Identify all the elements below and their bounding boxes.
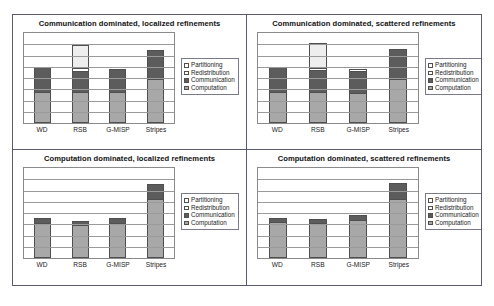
x-tick-label: Stripes	[137, 261, 175, 268]
chart-panel-computation-scattered: Computation dominated, scattered refinem…	[247, 150, 481, 285]
x-tick-label: RSB	[61, 261, 99, 268]
plot-area	[257, 32, 419, 124]
gridline	[258, 179, 418, 180]
x-axis-tick-labels: WD RSB G-MISP Stripes	[257, 126, 419, 133]
chart-legend: Partitioning Redistribution Communicatio…	[181, 193, 239, 230]
gridline	[24, 213, 174, 214]
legend-item-communication: Communication	[428, 77, 479, 83]
x-axis-tick-labels: WD RSB G-MISP Stripes	[23, 126, 175, 133]
legend-item-computation: Computation	[428, 220, 479, 226]
gridline	[258, 89, 418, 90]
legend-label: Computation	[435, 220, 471, 226]
x-axis-tick-labels: WD RSB G-MISP Stripes	[257, 261, 419, 268]
legend-item-communication: Communication	[184, 212, 235, 218]
x-tick-label: G-MISP	[338, 261, 379, 268]
chart-panel-communication-localized: Communication dominated, localized refin…	[13, 15, 247, 150]
x-tick-label: Stripes	[137, 126, 175, 133]
stacked-bar[interactable]	[34, 67, 51, 123]
gridline	[24, 101, 174, 102]
x-tick-label: Stripes	[379, 126, 420, 133]
x-tick-label: G-MISP	[338, 126, 379, 133]
legend-item-redistribution: Redistribution	[184, 70, 235, 76]
gridline	[24, 56, 174, 57]
panel-title: Computation dominated, localized refinem…	[13, 154, 246, 163]
x-tick-label: RSB	[298, 126, 339, 133]
gridline	[258, 101, 418, 102]
legend-item-computation: Computation	[184, 220, 235, 226]
plot-area	[23, 32, 175, 124]
panel-title: Communication dominated, scattered refin…	[247, 19, 481, 28]
legend-swatch-computation-icon	[428, 86, 433, 91]
legend-label: Computation	[191, 220, 227, 226]
bar-segment-communication	[390, 184, 406, 200]
legend-item-computation: Computation	[184, 85, 235, 91]
legend-item-partitioning: Partitioning	[184, 62, 235, 68]
gridline	[24, 67, 174, 68]
legend-label: Partitioning	[435, 62, 467, 68]
legend-label: Partitioning	[435, 197, 467, 203]
gridline	[258, 191, 418, 192]
x-tick-label: G-MISP	[99, 126, 137, 133]
stacked-bar[interactable]	[72, 221, 89, 258]
legend-item-redistribution: Redistribution	[184, 205, 235, 211]
legend-swatch-partitioning-icon	[184, 63, 189, 68]
bar-segment-communication	[148, 185, 163, 200]
legend-swatch-computation-icon	[428, 221, 433, 226]
gridline	[258, 56, 418, 57]
panel-title: Computation dominated, scattered refinem…	[247, 154, 481, 163]
legend-item-partitioning: Partitioning	[428, 62, 479, 68]
bar-segment-communication	[350, 72, 366, 94]
legend-swatch-communication-icon	[184, 213, 189, 218]
x-tick-label: WD	[23, 261, 61, 268]
plot-area	[23, 167, 175, 259]
legend-item-partitioning: Partitioning	[428, 197, 479, 203]
bar-segment-computation	[310, 224, 326, 257]
x-axis-tick-labels: WD RSB G-MISP Stripes	[23, 261, 175, 268]
x-tick-label: RSB	[61, 126, 99, 133]
plot-area	[257, 167, 419, 259]
legend-swatch-partitioning-icon	[428, 198, 433, 203]
x-tick-label: RSB	[298, 261, 339, 268]
gridline	[258, 247, 418, 248]
gridline	[24, 202, 174, 203]
legend-item-communication: Communication	[428, 212, 479, 218]
gridline	[258, 202, 418, 203]
stacked-bar[interactable]	[269, 67, 287, 123]
gridline	[24, 247, 174, 248]
gridline	[24, 179, 174, 180]
legend-swatch-partitioning-icon	[184, 198, 189, 203]
legend-label: Communication	[191, 212, 235, 218]
gridline	[24, 112, 174, 113]
legend-item-computation: Computation	[428, 85, 479, 91]
legend-swatch-redistribution-icon	[428, 206, 433, 211]
bar-segment-computation	[73, 93, 88, 122]
figure-panel-grid: Communication dominated, localized refin…	[0, 0, 494, 306]
legend-item-communication: Communication	[184, 77, 235, 83]
legend-label: Communication	[435, 212, 479, 218]
bar-segment-computation	[110, 93, 125, 122]
legend-swatch-partitioning-icon	[428, 63, 433, 68]
x-tick-label: G-MISP	[99, 261, 137, 268]
legend-item-partitioning: Partitioning	[184, 197, 235, 203]
legend-label: Communication	[191, 77, 235, 83]
legend-swatch-redistribution-icon	[184, 71, 189, 76]
legend-label: Computation	[435, 85, 471, 91]
bar-segment-computation	[350, 94, 366, 122]
legend-label: Partitioning	[191, 62, 223, 68]
legend-label: Redistribution	[191, 70, 230, 76]
bar-segment-computation	[35, 93, 50, 122]
bar-segment-computation	[73, 226, 88, 257]
legend-label: Computation	[191, 85, 227, 91]
plot-wrapper: WD RSB G-MISP Stripes Partitioning Redis…	[23, 32, 242, 143]
bar-segment-computation	[270, 93, 286, 122]
legend-item-redistribution: Redistribution	[428, 205, 479, 211]
chart-grid: Communication dominated, localized refin…	[12, 14, 482, 286]
gridline	[258, 78, 418, 79]
gridline	[258, 44, 418, 45]
gridline	[24, 191, 174, 192]
plot-wrapper: WD RSB G-MISP Stripes Partitioning Redis…	[257, 32, 477, 143]
gridline	[258, 236, 418, 237]
gridline	[258, 213, 418, 214]
gridline	[24, 44, 174, 45]
bar-segment-computation	[148, 200, 163, 257]
